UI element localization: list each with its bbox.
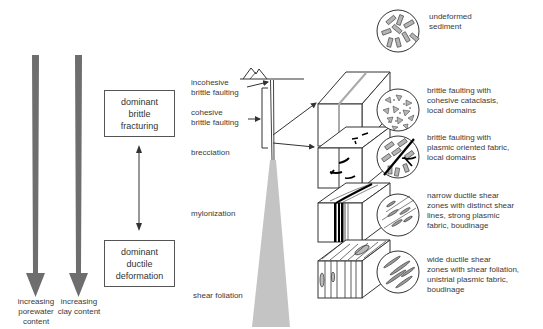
circle-wide-shear	[377, 251, 419, 293]
label-line: increasing	[10, 297, 62, 307]
label-line: brittle faulting	[191, 118, 239, 128]
to-block-1-arrow	[273, 103, 316, 135]
label-line: zones with distinct shear	[427, 201, 514, 211]
label-line: unistrial plasmic fabric,	[427, 275, 519, 285]
label-line: brittle faulting	[191, 88, 239, 98]
ductile-regime-box: dominant ductile deformation	[104, 240, 175, 287]
label-line: content	[10, 317, 62, 327]
depth-label-mylonization: mylonization	[191, 209, 235, 219]
label-line: lines, strong plasmic	[427, 211, 514, 221]
microstructure-label-plasmic: brittle faulting with plasmic oriented f…	[427, 133, 509, 163]
label-line: mylonization	[191, 209, 235, 219]
label-line: boudinage	[427, 285, 519, 295]
label-line: brecciation	[191, 148, 230, 158]
incohesive-pointer-arrow	[247, 82, 268, 87]
to-block-2-arrow	[273, 143, 314, 147]
label-line: clay content	[56, 307, 102, 317]
label-line: brittle faulting with	[427, 133, 509, 143]
depth-label-incohesive: incohesive brittle faulting	[191, 78, 239, 98]
box-line: brittle	[121, 108, 159, 120]
box-line: fracturing	[121, 120, 159, 132]
label-line: brittle faulting with	[427, 86, 498, 96]
clay-content-label: increasing clay content	[56, 297, 102, 317]
circle-cataclasis	[377, 89, 419, 131]
label-line: sediment	[429, 22, 472, 32]
depth-label-shear-foliation: shear foliation	[193, 291, 243, 301]
label-line: wide ductile shear	[427, 255, 519, 265]
brittle-regime-box: dominant brittle fracturing	[104, 90, 175, 137]
microstructure-label-cataclasis: brittle faulting with cohesive cataclasi…	[427, 86, 498, 116]
label-line: cohesive cataclasis,	[427, 96, 498, 106]
label-line: local domains	[427, 106, 498, 116]
microstructure-label-undeformed: undeformed sediment	[429, 12, 472, 32]
label-line: local domains	[427, 153, 509, 163]
surface-with-mountain-icon	[240, 68, 304, 79]
porewater-arrow	[26, 55, 45, 297]
label-line: narrow ductile shear	[427, 191, 514, 201]
porewater-label: increasing porewater content	[10, 297, 62, 327]
box-line: dominant	[116, 246, 164, 258]
microstructure-label-narrow-shear: narrow ductile shear zones with distinct…	[427, 191, 514, 231]
clay-content-arrow	[69, 55, 88, 297]
label-line: incohesive	[191, 78, 239, 88]
box-line: dominant	[121, 96, 159, 108]
circle-narrow-shear	[377, 194, 419, 236]
fault-zone-wedge	[252, 80, 290, 327]
circle-undeformed	[377, 10, 419, 52]
depth-label-brecciation: brecciation	[191, 148, 230, 158]
label-line: porewater	[10, 307, 62, 317]
microstructure-label-wide-shear: wide ductile shear zones with shear foli…	[427, 255, 519, 295]
circle-plasmic-fabric	[377, 136, 419, 178]
label-line: shear foliation	[193, 291, 243, 301]
label-line: undeformed	[429, 12, 472, 22]
label-line: cohesive	[191, 108, 239, 118]
label-line: zones with shear foliation,	[427, 265, 519, 275]
box-line: ductile	[116, 258, 164, 270]
box-line: deformation	[116, 270, 164, 282]
label-line: plasmic oriented fabric,	[427, 143, 509, 153]
label-line: increasing	[56, 297, 102, 307]
depth-label-cohesive: cohesive brittle faulting	[191, 108, 239, 128]
label-line: fabric, boudinage	[427, 221, 514, 231]
regime-double-arrow	[136, 145, 142, 231]
